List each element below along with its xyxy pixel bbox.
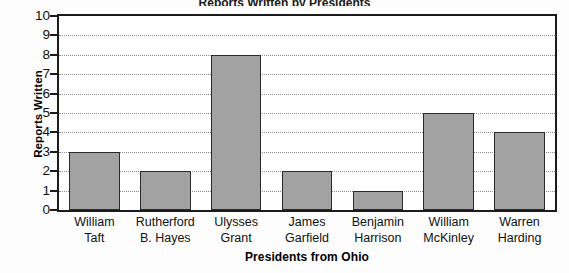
x-category-label: UlyssesGrant xyxy=(201,215,272,246)
y-tick-label: 5 xyxy=(28,106,50,120)
y-tick-label: 9 xyxy=(28,28,50,42)
x-category-label-line2: Harding xyxy=(484,231,555,247)
x-axis-title: Presidents from Ohio xyxy=(57,250,557,264)
bar xyxy=(140,171,191,210)
x-category-label-line2: Garfield xyxy=(272,231,343,247)
bars-layer xyxy=(59,16,555,210)
x-category-label-line1: William xyxy=(59,215,130,231)
bar xyxy=(353,191,404,210)
y-tick-label: 4 xyxy=(28,125,50,139)
bar xyxy=(423,113,474,210)
y-tick-label: 10 xyxy=(28,9,50,23)
x-category-label: BenjaminHarrison xyxy=(342,215,413,246)
bar xyxy=(282,171,333,210)
x-category-label-line1: Benjamin xyxy=(342,215,413,231)
bar xyxy=(69,152,120,210)
x-category-label-line2: McKinley xyxy=(413,231,484,247)
bar-chart: Reports Written by Presidents Reports Wr… xyxy=(0,0,569,273)
x-category-label: JamesGarfield xyxy=(272,215,343,246)
x-category-label: RutherfordB. Hayes xyxy=(130,215,201,246)
x-category-label: WilliamMcKinley xyxy=(413,215,484,246)
x-category-label-line1: James xyxy=(272,215,343,231)
bar xyxy=(494,132,545,210)
x-category-label-line2: B. Hayes xyxy=(130,231,201,247)
bar xyxy=(211,55,262,210)
x-category-label-line2: Grant xyxy=(201,231,272,247)
x-category-label-line1: Ulysses xyxy=(201,215,272,231)
x-category-label-line2: Harrison xyxy=(342,231,413,247)
y-tick-label: 3 xyxy=(28,145,50,159)
x-category-label: WilliamTaft xyxy=(59,215,130,246)
y-tick-label: 7 xyxy=(28,67,50,81)
x-axis-category-labels: WilliamTaftRutherfordB. HayesUlyssesGran… xyxy=(57,215,557,249)
y-tick-label: 1 xyxy=(28,184,50,198)
x-category-label-line1: Rutherford xyxy=(130,215,201,231)
x-category-label-line1: William xyxy=(413,215,484,231)
x-category-label-line2: Taft xyxy=(59,231,130,247)
y-tick-label: 0 xyxy=(28,203,50,217)
x-category-label-line1: Warren xyxy=(484,215,555,231)
y-tick-label: 8 xyxy=(28,48,50,62)
chart-title: Reports Written by Presidents xyxy=(0,0,569,6)
x-category-label: WarrenHarding xyxy=(484,215,555,246)
y-tick-label: 6 xyxy=(28,87,50,101)
y-tick-label: 2 xyxy=(28,164,50,178)
plot-area xyxy=(57,14,557,212)
